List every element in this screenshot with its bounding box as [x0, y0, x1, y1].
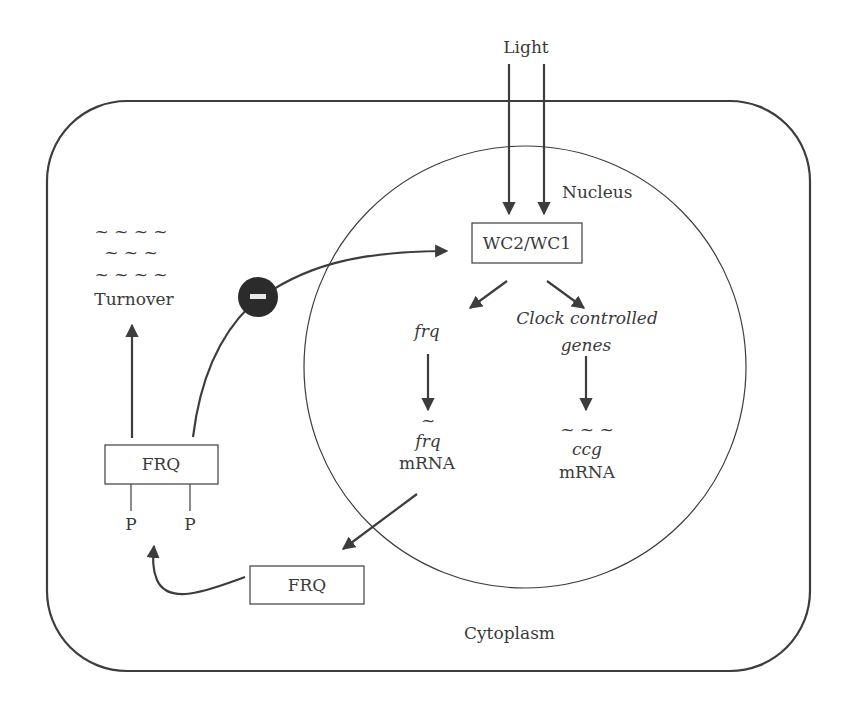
- phosphorylation-arrow: [153, 546, 245, 594]
- turnover-tilde-row-3: ~ ~ ~ ~: [94, 264, 167, 284]
- wc-complex-label: WC2/WC1: [483, 233, 571, 253]
- cytoplasm-label: Cytoplasm: [464, 623, 555, 643]
- frq-protein-label: FRQ: [288, 575, 327, 595]
- inhibition-arc: [193, 251, 447, 437]
- frq-phosphorylated-node: FRQ P P: [105, 445, 218, 534]
- ccg-mrna-tilde: ~ ~ ~: [560, 419, 614, 439]
- frq-mrna-label: mRNA: [399, 453, 456, 473]
- nucleus-label: Nucleus: [562, 182, 633, 202]
- phosphate-left: P: [125, 514, 136, 534]
- phosphate-right: P: [184, 514, 195, 534]
- ccg-genes-label-line1: Clock controlled: [516, 308, 658, 328]
- wc-to-ccg-arrow: [547, 281, 584, 308]
- inhibition-node: [238, 277, 278, 317]
- turnover-tilde-row-2: ~ ~ ~: [104, 242, 158, 262]
- turnover-tilde-row-1: ~ ~ ~ ~: [94, 221, 167, 241]
- wc-to-frq-arrow: [470, 281, 507, 308]
- turnover-label: Turnover: [94, 289, 174, 309]
- nucleus-membrane: [304, 146, 746, 588]
- frq-mrna-italic: frq: [413, 431, 440, 451]
- ccg-mrna-label: mRNA: [559, 462, 616, 482]
- ccg-genes-label-line2: genes: [561, 335, 612, 355]
- translation-arrow: [343, 494, 417, 549]
- circadian-clock-diagram: Light Nucleus WC2/WC1 frq ~ frq mRNA Clo…: [0, 0, 852, 706]
- frq-gene-label: frq: [412, 321, 439, 341]
- light-label: Light: [503, 37, 549, 57]
- wc-complex-node: WC2/WC1: [472, 223, 582, 263]
- ccg-mrna-italic: ccg: [572, 439, 602, 459]
- frq-mrna-tilde: ~: [421, 410, 435, 430]
- frq-phosphorylated-label: FRQ: [142, 454, 181, 474]
- frq-protein-node: FRQ: [250, 566, 364, 604]
